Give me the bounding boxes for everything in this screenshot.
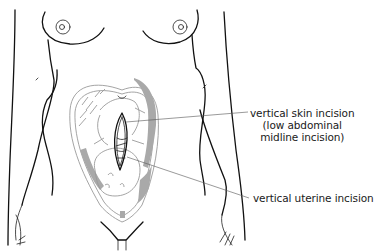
label-skin-incision-line2: (low abdominal [250,119,354,131]
groin-outline [101,222,143,240]
left-crease [36,78,38,80]
fetus-body [94,98,145,145]
right-nipple [179,25,184,30]
left-nipple [60,25,65,30]
label-uterine-incision: vertical uterine incision [253,192,374,204]
left-arm-outline [8,10,15,245]
right-arm-outer [224,12,245,240]
left-arm-inner [22,40,54,205]
left-breast [42,12,104,44]
fetus-limbs [105,173,124,188]
placenta-hatching [79,89,105,126]
pubic-mark [118,240,126,250]
leader-line-skin-incision [126,112,248,122]
left-hand [15,205,25,245]
right-areola [173,20,187,34]
label-skin-incision-line3: midline incision) [250,131,354,143]
label-skin-incision: vertical skin incision (low abdominal mi… [250,107,354,143]
right-breast [143,10,198,44]
cervix [120,211,125,218]
label-skin-incision-line1: vertical skin incision [250,107,354,119]
right-hand [220,215,234,245]
left-torso-outline [42,70,57,195]
left-areola [56,20,70,34]
uterus-shading-left [80,148,104,190]
uterus-shading-right [134,78,156,168]
right-arm-inner [200,110,226,215]
diagram-canvas: vertical skin incision (low abdominal mi… [0,0,375,252]
right-torso-outline [192,35,205,195]
